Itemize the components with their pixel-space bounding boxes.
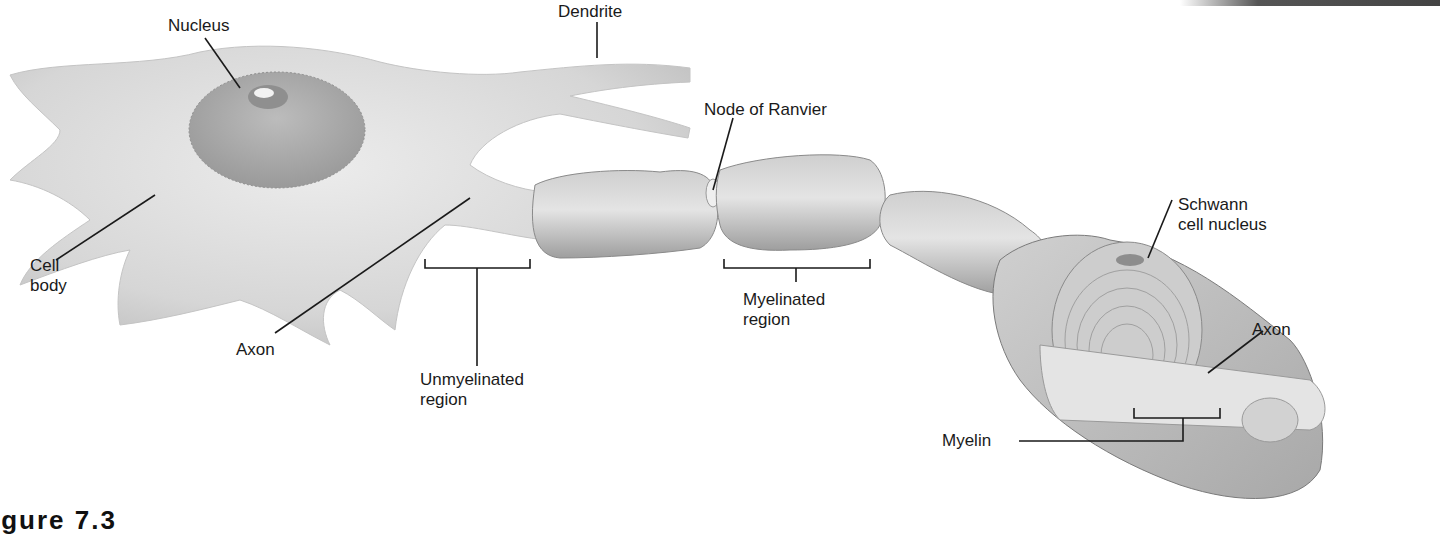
label-node-of-ranvier: Node of Ranvier [704,100,827,120]
label-axon-left: Axon [236,340,275,360]
label-myelin: Myelin [942,431,991,451]
label-nucleus: Nucleus [168,16,229,36]
label-cell-body: Cell body [30,256,67,296]
myelin-segment-2 [716,155,885,251]
myelin-segment-1 [532,171,717,258]
label-myelinated-region: Myelinated region [743,290,825,330]
label-schwann-cell-nucleus: Schwann cell nucleus [1178,195,1267,235]
label-axon-right: Axon [1252,320,1291,340]
label-unmyelinated-region: Unmyelinated region [420,370,524,410]
schwann-cell-nucleus-shape [1116,254,1144,266]
label-dendrite: Dendrite [558,2,622,22]
figure-caption: igure 7.3 [0,505,117,536]
